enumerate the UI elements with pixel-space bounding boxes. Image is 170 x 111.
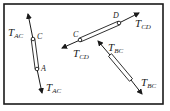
label-pin-a: A — [40, 64, 46, 73]
label-tbc-bottom: TBC — [141, 76, 156, 90]
label-tac-bottom: TAC — [46, 81, 61, 95]
label-pin-d: D — [112, 11, 119, 20]
pin-d — [117, 21, 121, 25]
label-tac-top: TAC — [8, 26, 23, 40]
member-bc-body — [109, 54, 133, 82]
label-tbc-top: TBC — [108, 41, 123, 55]
member-ac — [28, 14, 42, 93]
pin-c-cd — [78, 38, 82, 42]
label-tcd-right: TCD — [135, 17, 151, 31]
pin-a — [35, 67, 39, 71]
member-cd-body — [79, 21, 120, 42]
free-body-diagram: TAC C A TAC C D TCD TCD TBC TBC — [0, 0, 170, 111]
label-pin-c-left: C — [37, 32, 43, 41]
force-arrow-tac-top — [28, 14, 33, 39]
label-pin-c-mid: C — [73, 30, 79, 39]
pin-c-ac — [31, 37, 35, 41]
label-tcd-left: TCD — [73, 47, 89, 61]
member-ac-body — [31, 39, 39, 70]
